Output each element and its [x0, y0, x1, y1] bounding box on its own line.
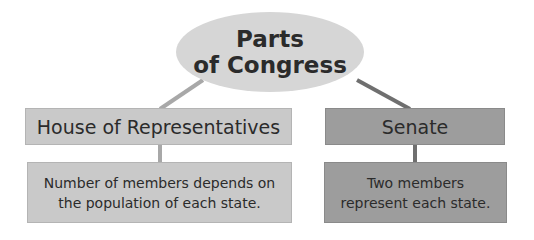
house-title: House of Representatives: [37, 116, 280, 138]
senate-description-node: Two members represent each state.: [324, 162, 507, 223]
house-description-line2: the population of each state.: [58, 193, 260, 213]
senate-title: Senate: [382, 116, 449, 138]
house-description-node: Number of members depends on the populat…: [27, 162, 292, 223]
house-of-representatives-node: House of Representatives: [25, 108, 292, 145]
senate-description-line1: Two members: [367, 173, 464, 193]
senate-node: Senate: [325, 108, 505, 145]
root-to-house-connector: [160, 80, 203, 109]
root-title-line1: Parts: [236, 26, 304, 52]
root-title-line2: of Congress: [193, 52, 347, 78]
house-description-line1: Number of members depends on: [44, 173, 275, 193]
root-to-senate-connector: [357, 80, 410, 109]
root-node-parts-of-congress: Parts of Congress: [176, 12, 364, 92]
senate-description-line2: represent each state.: [341, 193, 491, 213]
